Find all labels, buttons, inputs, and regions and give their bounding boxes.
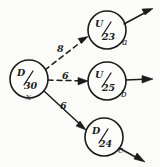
node-a-circle	[88, 11, 126, 49]
node-c-denominator: 24	[99, 139, 112, 149]
node-b-tag: b	[121, 90, 127, 99]
node-b-denominator: 25	[102, 83, 115, 93]
node-source-tag: x	[26, 93, 31, 102]
node-a-numerator: U	[95, 19, 103, 29]
node-source-denominator: 30	[24, 81, 37, 91]
node-c-numerator: D	[92, 126, 100, 136]
node-source-numerator: D	[17, 68, 25, 78]
node-a-denominator: 23	[102, 32, 115, 42]
edge-source-c-label: 6	[60, 101, 67, 111]
node-b-numerator: U	[95, 70, 103, 80]
network-diagram: D 30 x U 23 a U 25 b D 24 c 8 6 6	[0, 0, 160, 167]
out-c-arrowhead	[134, 153, 145, 162]
node-a-tag: a	[122, 38, 127, 47]
edge-source-a-line	[45, 38, 86, 70]
edge-source-b-label: 6	[62, 71, 69, 81]
edge-source-b-arrowhead	[78, 78, 88, 86]
node-c-tag: c	[118, 146, 123, 155]
edge-source-a-label: 8	[57, 44, 64, 54]
out-b-arrowhead	[142, 76, 153, 84]
edge-source-a-arrowhead	[78, 37, 88, 44]
